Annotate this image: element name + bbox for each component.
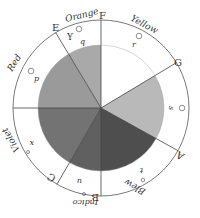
- letter-u: u: [77, 177, 82, 186]
- point-F: F: [99, 10, 106, 21]
- color-circle-diagram: Orange Yellow Red Violet Indico Blew E F…: [0, 0, 200, 218]
- letter-x: x: [29, 139, 34, 148]
- letter-q: q: [80, 37, 85, 46]
- point-E: E: [52, 22, 59, 33]
- point-Y: Y: [66, 32, 74, 42]
- letter-p: p: [34, 74, 39, 83]
- label-red: Red: [5, 52, 24, 73]
- letter-s: s: [167, 106, 176, 110]
- point-G: G: [174, 57, 182, 68]
- point-B: B: [92, 192, 99, 203]
- color-circle-svg: Orange Yellow Red Violet Indico Blew E F…: [0, 0, 200, 218]
